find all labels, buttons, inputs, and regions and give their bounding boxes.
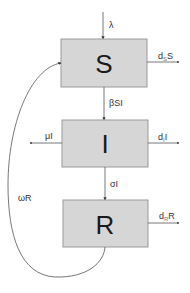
compartment-i: I bbox=[62, 120, 148, 167]
infection-flow: βSI bbox=[104, 87, 123, 120]
recovery-flow: σI bbox=[105, 167, 118, 200]
compartment-s: S bbox=[61, 39, 147, 87]
death-s-label: dSS bbox=[158, 51, 173, 62]
birth-label: λ bbox=[109, 20, 114, 30]
compartment-r-label: R bbox=[96, 210, 115, 240]
disease-death-flow: μI bbox=[31, 131, 62, 143]
recovery-label: σI bbox=[110, 179, 118, 189]
death-s-flow: dSS bbox=[147, 51, 178, 62]
disease-death-label: μI bbox=[45, 131, 53, 141]
death-i-label: dII bbox=[158, 132, 167, 143]
death-r-label: dRR bbox=[159, 211, 175, 222]
sir-diagram: λ S dSS βSI I μI dII σI R dRR bbox=[0, 0, 190, 293]
compartment-s-label: S bbox=[95, 49, 112, 79]
waning-label: ωR bbox=[18, 193, 32, 203]
compartment-i-label: I bbox=[101, 129, 108, 159]
infection-label: βSI bbox=[109, 98, 123, 108]
death-r-flow: dRR bbox=[148, 211, 178, 223]
birth-flow: λ bbox=[103, 12, 114, 39]
compartment-r: R bbox=[63, 200, 148, 247]
death-i-flow: dII bbox=[148, 132, 178, 143]
